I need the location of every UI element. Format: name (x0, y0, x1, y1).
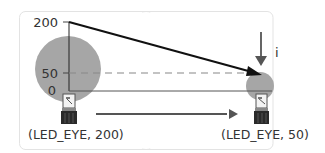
tick-label-200: 200 (33, 15, 58, 30)
current-label: i (275, 45, 279, 60)
led-brightness-diagram: 200 50 0 i (LED_EYE, 200) (LED_EYE, 50) (0, 0, 325, 153)
state-label-right: (LED_EYE, 50) (221, 127, 309, 142)
led-icon-right (254, 94, 269, 124)
tick-label-0: 0 (48, 83, 56, 98)
state-label-left: (LED_EYE, 200) (28, 127, 124, 142)
tick-label-50: 50 (41, 66, 58, 81)
led-icon-left (61, 94, 77, 124)
